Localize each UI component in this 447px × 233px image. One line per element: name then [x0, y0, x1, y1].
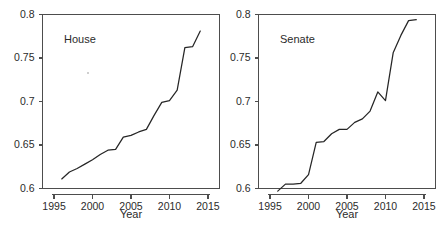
panel-background: [0, 0, 223, 233]
y-tick-label: 0.65: [230, 138, 251, 150]
y-tick-label: 0.6: [20, 182, 35, 194]
senate-plot-svg: 0.60.650.70.750.8 19952000200520102015 S…: [223, 0, 447, 233]
x-tick-label: 2000: [81, 200, 105, 212]
house-plot-svg: 0.60.650.70.750.8 19952000200520102015 H…: [0, 0, 223, 233]
y-tick-label: 0.75: [14, 51, 35, 63]
x-tick-label: 2010: [158, 200, 182, 212]
x-tick-label: 2000: [297, 200, 321, 212]
x-tick-label: 1995: [258, 200, 282, 212]
senate-x-axis-title: Year: [336, 208, 359, 220]
x-tick-label: 2010: [374, 200, 398, 212]
house-x-axis-title: Year: [120, 208, 143, 220]
y-tick-label: 0.8: [236, 8, 251, 20]
panel-house: 0.60.650.70.750.8 19952000200520102015 H…: [0, 0, 223, 233]
y-tick-label: 0.7: [236, 95, 251, 107]
senate-panel-title: Senate: [280, 33, 315, 45]
x-tick-label: 2015: [412, 200, 436, 212]
stray-speck: [87, 72, 88, 73]
house-panel-title: House: [64, 33, 96, 45]
y-tick-label: 0.8: [20, 8, 35, 20]
x-tick-label: 2015: [196, 200, 220, 212]
x-tick-label: 1995: [42, 200, 66, 212]
y-tick-label: 0.7: [20, 95, 35, 107]
panel-senate: 0.60.650.70.750.8 19952000200520102015 S…: [223, 0, 446, 233]
panel-background: [223, 0, 447, 233]
y-tick-label: 0.75: [230, 51, 251, 63]
figure-root: 0.60.650.70.750.8 19952000200520102015 H…: [0, 0, 447, 233]
y-tick-label: 0.65: [14, 138, 35, 150]
y-tick-label: 0.6: [236, 182, 251, 194]
